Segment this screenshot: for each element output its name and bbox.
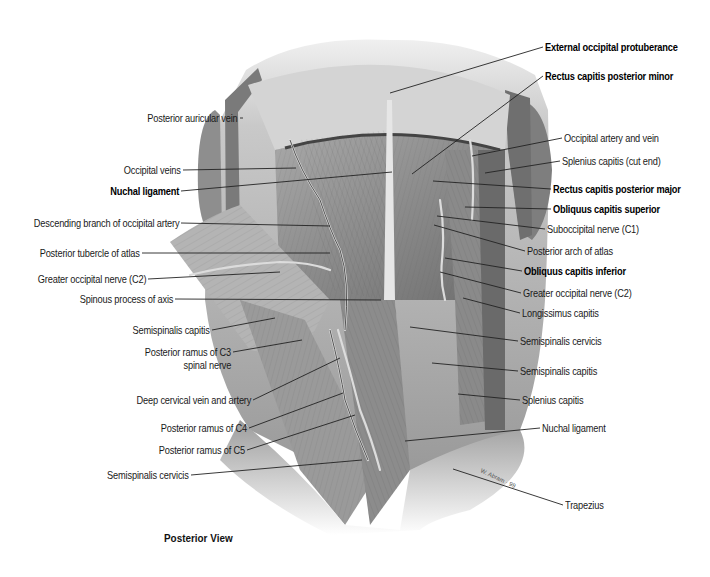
label-splenius-capitis: Splenius capitis — [522, 394, 583, 406]
label-posterior-ramus-of-c3: Posterior ramus of C3 — [145, 346, 231, 358]
label-posterior-ramus-of-c4: Posterior ramus of C4 — [161, 422, 247, 434]
label-greater-occipital-nerve-c2: Greater occipital nerve (C2) — [523, 287, 632, 299]
label-semispinalis-capitis: Semispinalis capitis — [520, 365, 597, 377]
label-occipital-veins: Occipital veins — [124, 164, 181, 176]
label-spinous-process-of-axis: Spinous process of axis — [79, 293, 173, 305]
label-obliquus-capitis-superior: Obliquus capitis superior — [553, 203, 660, 215]
label-splenius-capitis-cut-end: Splenius capitis (cut end) — [562, 155, 661, 167]
label-rectus-capitis-posterior-minor: Rectus capitis posterior minor — [545, 70, 673, 82]
label-descending-branch-of-occipital-artery: Descending branch of occipital artery — [33, 217, 179, 229]
label-nuchal-ligament: Nuchal ligament — [110, 185, 179, 197]
label-obliquus-capitis-inferior: Obliquus capitis inferior — [524, 265, 626, 277]
label-semispinalis-cervicis: Semispinalis cervicis — [107, 469, 189, 481]
label-occipital-artery-and-vein: Occipital artery and vein — [564, 132, 659, 144]
label-posterior-auricular-vein: Posterior auricular vein — [148, 112, 238, 124]
label-greater-occipital-nerve-c2: Greater occipital nerve (C2) — [37, 273, 146, 285]
label-rectus-capitis-posterior-major: Rectus capitis posterior major — [553, 183, 681, 195]
anatomy-figure: W. Abram · 99 Posterior auricular veinOc… — [0, 0, 710, 577]
label-deep-cervical-vein-and-artery: Deep cervical vein and artery — [136, 394, 251, 406]
label-nuchal-ligament: Nuchal ligament — [542, 422, 606, 434]
label-posterior-ramus-of-c5: Posterior ramus of C5 — [159, 444, 245, 456]
label-trapezius: Trapezius — [565, 499, 604, 511]
label-suboccipital-nerve-c1: Suboccipital nerve (C1) — [547, 223, 639, 235]
view-caption: Posterior View — [164, 532, 233, 544]
label-longissimus-capitis: Longissimus capitis — [522, 307, 599, 319]
label-semispinalis-capitis: Semispinalis capitis — [133, 324, 210, 336]
label-semispinalis-cervicis: Semispinalis cervicis — [520, 335, 602, 347]
label-posterior-tubercle-of-atlas: Posterior tubercle of atlas — [40, 247, 140, 259]
label-spinal-nerve: spinal nerve — [183, 359, 231, 371]
label-external-occipital-protuberance: External occipital protuberance — [545, 41, 678, 53]
label-posterior-arch-of-atlas: Posterior arch of atlas — [527, 245, 613, 257]
